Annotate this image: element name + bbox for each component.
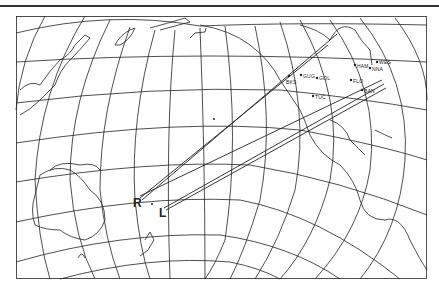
station-label-gug: GUG bbox=[303, 73, 315, 79]
meridian-line bbox=[134, 30, 155, 279]
coastline-aleutian bbox=[190, 28, 206, 38]
station-dot bbox=[350, 79, 352, 81]
station-label-flo: FLO bbox=[353, 78, 363, 84]
path-R-2 bbox=[142, 34, 337, 200]
parallel-line bbox=[16, 235, 340, 279]
receiver-label-l: L bbox=[159, 206, 166, 220]
island-dot bbox=[213, 118, 215, 120]
station-label-ham: HAM bbox=[357, 63, 369, 69]
station-dot bbox=[300, 74, 302, 76]
station-label-bks: BKS bbox=[286, 79, 297, 85]
coastline-alaska bbox=[150, 18, 190, 30]
station-dot bbox=[376, 61, 378, 63]
island-dot bbox=[151, 203, 153, 205]
meridian-line bbox=[168, 30, 175, 279]
station-label-gol: GOL bbox=[319, 75, 330, 81]
meridian-line bbox=[360, 18, 405, 279]
map-canvas bbox=[0, 0, 439, 289]
coastline-australia bbox=[33, 168, 106, 240]
coastline-gulf bbox=[330, 120, 365, 155]
meridian-line bbox=[395, 18, 427, 100]
meridian-line bbox=[100, 27, 130, 279]
meridian-line bbox=[35, 16, 85, 279]
meridian-line bbox=[230, 26, 266, 279]
station-label-wes: WES bbox=[379, 59, 391, 65]
coastline-tasmania bbox=[78, 254, 85, 258]
station-dot bbox=[312, 95, 314, 97]
station-dot bbox=[354, 64, 356, 66]
coastline-caribbean bbox=[375, 130, 392, 138]
coastline-americas bbox=[200, 25, 427, 270]
coastline-new-guinea bbox=[50, 163, 100, 170]
parallel-line bbox=[16, 56, 427, 62]
station-dot bbox=[369, 67, 371, 69]
station-dot bbox=[316, 77, 318, 79]
meridian-line bbox=[16, 16, 45, 110]
parallel-line bbox=[16, 19, 427, 33]
receiver-label-r: R bbox=[133, 196, 142, 210]
station-label-nna: NNA bbox=[372, 66, 383, 72]
station-dot bbox=[288, 75, 290, 77]
meridian-line bbox=[200, 28, 205, 279]
meridian-line bbox=[205, 26, 233, 279]
path-L-2 bbox=[166, 88, 386, 210]
meridian-line bbox=[280, 20, 334, 279]
meridian-line bbox=[255, 22, 300, 279]
station-label-tuc: TUC bbox=[315, 94, 326, 100]
path-R-3 bbox=[140, 80, 382, 196]
path-L-1 bbox=[164, 84, 384, 208]
station-dot bbox=[361, 89, 363, 91]
coastline-new-zealand bbox=[140, 232, 154, 256]
station-label-ban: BAN bbox=[364, 88, 375, 94]
